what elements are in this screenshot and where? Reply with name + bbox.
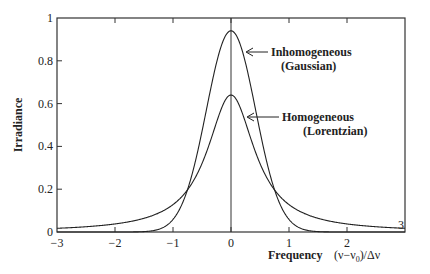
x-tick-label: −2 bbox=[109, 236, 122, 250]
y-tick-label: 0.2 bbox=[38, 182, 53, 196]
x-axis-units: (ν−ν0)/Δν bbox=[334, 248, 381, 264]
x-tick-label: 0 bbox=[228, 236, 234, 250]
y-tick-label: 1 bbox=[47, 11, 53, 25]
corner-label-3: 3 bbox=[398, 218, 404, 232]
lorentzian-label-line2: (Lorentzian) bbox=[303, 124, 367, 138]
gaussian-arrow bbox=[246, 48, 268, 56]
x-axis-label: Frequency bbox=[268, 248, 322, 262]
x-tick-label: −1 bbox=[167, 236, 180, 250]
y-tick-label: 0.8 bbox=[38, 54, 53, 68]
y-tick-label: 0 bbox=[47, 225, 53, 239]
lorentzian-label-line1: Homogeneous bbox=[282, 110, 354, 124]
y-tick-label: 0.6 bbox=[38, 97, 53, 111]
y-tick-label: 0.4 bbox=[38, 139, 53, 153]
line-chart: −3−2−101200.20.40.60.81 Irradiance Frequ… bbox=[0, 0, 430, 274]
gaussian-label-line2: (Gaussian) bbox=[281, 59, 336, 73]
y-axis-label: Irradiance bbox=[11, 97, 25, 152]
lorentzian-arrow bbox=[247, 113, 279, 121]
gaussian-label-line1: Inhomogeneous bbox=[271, 45, 352, 59]
